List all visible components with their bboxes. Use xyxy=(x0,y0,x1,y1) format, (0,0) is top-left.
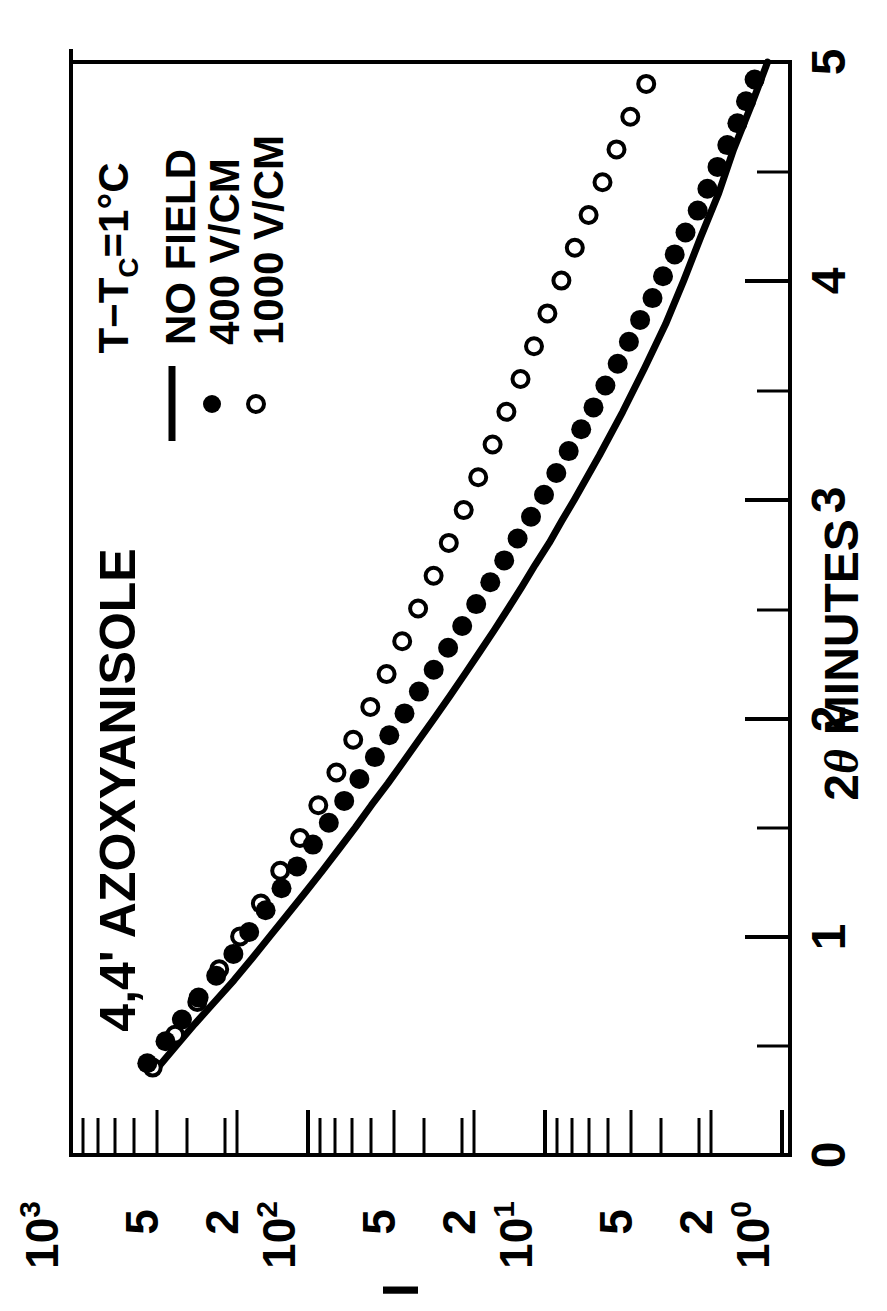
data-point-open xyxy=(553,273,569,289)
data-point-filled xyxy=(303,835,323,855)
data-point-filled xyxy=(395,703,415,723)
data-point-open xyxy=(379,666,395,682)
data-point-filled xyxy=(653,266,673,286)
data-point-open xyxy=(394,633,410,649)
data-point-filled xyxy=(438,638,458,658)
data-point-filled xyxy=(688,201,708,221)
data-point-filled xyxy=(584,397,604,417)
data-point-filled xyxy=(619,332,639,352)
rotated-figure: 103 5 2 102 5 xyxy=(0,0,887,1311)
data-point-filled xyxy=(697,179,717,199)
data-point-open xyxy=(609,141,625,157)
x-tick-label-1: 1 xyxy=(802,924,855,951)
x-tick-label-0: 0 xyxy=(802,1142,855,1169)
y-tick-label-500: 5 xyxy=(116,1209,168,1235)
legend-condition-sub: C xyxy=(113,257,144,277)
data-point-open xyxy=(328,765,344,781)
data-point-filled xyxy=(189,988,209,1008)
data-point-filled xyxy=(206,966,226,986)
data-point-filled xyxy=(608,354,628,374)
data-point-filled xyxy=(727,113,747,133)
x-tick-label-3: 3 xyxy=(802,487,855,514)
data-point-filled xyxy=(708,157,728,177)
x-axis-title-post: MINUTES xyxy=(815,519,868,735)
y-tick-label-10-base: 10 xyxy=(490,1218,542,1269)
data-point-filled xyxy=(480,572,500,592)
data-point-open xyxy=(526,338,542,354)
data-point-filled xyxy=(595,376,615,396)
legend-condition-main: T−T xyxy=(90,277,137,353)
data-point-filled xyxy=(676,223,696,243)
chart-svg: 103 5 2 102 5 xyxy=(0,0,887,1311)
data-point-filled xyxy=(466,594,486,614)
y-tick-label-1-exp: 0 xyxy=(724,1201,757,1218)
y-tick-label-20: 2 xyxy=(433,1209,485,1235)
y-tick-label-2: 2 xyxy=(670,1209,722,1235)
legend-label-400: 400 V/CM xyxy=(201,158,248,345)
legend-label-1000: 1000 V/CM xyxy=(245,135,292,345)
data-point-filled xyxy=(287,856,307,876)
data-point-open xyxy=(638,76,654,92)
data-point-filled xyxy=(630,310,650,330)
y-axis-title: I xyxy=(373,1283,429,1297)
y-tick-label-1000-base: 10 xyxy=(16,1218,68,1269)
data-point-open xyxy=(513,371,529,387)
data-point-open xyxy=(362,699,378,715)
data-point-open xyxy=(410,601,426,617)
legend-label-no-field: NO FIELD xyxy=(157,149,204,345)
data-point-filled xyxy=(736,91,756,111)
figure-page: 103 5 2 102 5 xyxy=(0,0,887,1311)
data-point-open xyxy=(581,207,597,223)
svg-text:2θMINUTES: 2θMINUTES xyxy=(815,519,868,801)
y-tick-label-200: 2 xyxy=(196,1209,248,1235)
data-point-filled xyxy=(156,1031,176,1051)
data-point-filled xyxy=(349,769,369,789)
data-point-filled xyxy=(571,419,591,439)
data-point-filled xyxy=(334,791,354,811)
data-point-filled xyxy=(643,288,663,308)
legend-condition-group: T−TC=1°C xyxy=(90,162,144,353)
data-point-filled xyxy=(534,485,554,505)
y-tick-label-1-base: 10 xyxy=(727,1218,779,1269)
y-axis-title-group: I xyxy=(373,1283,429,1297)
x-axis-title-theta: θ xyxy=(815,749,868,774)
y-tick-label-100-exp: 2 xyxy=(250,1201,283,1218)
data-point-filled xyxy=(745,70,765,90)
svg-text:T−TC=1°C: T−TC=1°C xyxy=(90,162,144,353)
data-point-open xyxy=(567,240,583,256)
y-tick-label-5: 5 xyxy=(590,1209,642,1235)
data-point-filled xyxy=(494,550,514,570)
data-point-filled xyxy=(452,616,472,636)
data-point-filled xyxy=(508,529,528,549)
data-point-filled xyxy=(365,747,385,767)
data-point-filled xyxy=(223,944,243,964)
data-point-filled xyxy=(424,660,444,680)
data-point-open xyxy=(498,404,514,420)
y-tick-label-100-base: 10 xyxy=(253,1218,305,1269)
data-point-open xyxy=(456,502,472,518)
data-point-open xyxy=(310,797,326,813)
filled-circle-icon xyxy=(203,395,221,413)
x-tick-label-4: 4 xyxy=(802,267,855,294)
data-point-open xyxy=(595,174,611,190)
data-point-filled xyxy=(379,725,399,745)
data-point-filled xyxy=(559,441,579,461)
data-point-filled xyxy=(521,507,541,527)
data-point-open xyxy=(485,437,501,453)
data-point-open xyxy=(441,535,457,551)
data-point-open xyxy=(470,469,486,485)
data-point-filled xyxy=(239,922,259,942)
data-point-filled xyxy=(272,878,292,898)
page-title: 4,4' AZOXYANISOLE xyxy=(90,548,146,1031)
x-axis-title-group: 2θMINUTES xyxy=(815,519,868,801)
y-tick-label-10-exp: 1 xyxy=(487,1201,520,1218)
data-point-filled xyxy=(319,813,339,833)
y-tick-label-1000-exp: 3 xyxy=(13,1201,46,1218)
data-point-open xyxy=(345,732,361,748)
legend-condition-value: =1°C xyxy=(90,162,137,257)
sample-title-group: 4,4' AZOXYANISOLE xyxy=(90,548,146,1031)
data-point-filled xyxy=(172,1010,192,1030)
data-point-open xyxy=(539,305,555,321)
data-point-open xyxy=(426,568,442,584)
x-tick-label-5: 5 xyxy=(802,49,855,76)
